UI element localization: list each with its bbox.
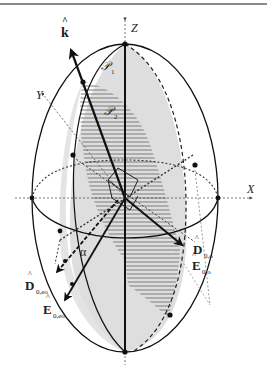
d-eo-label: D xyxy=(25,278,34,293)
y-axis-label: Y xyxy=(36,88,44,102)
e-eo-sub: 0,eo xyxy=(53,312,65,320)
e-o-sub: 0,o xyxy=(202,268,211,276)
e-eo-hat: ^ xyxy=(46,293,50,302)
z-axis-label: Z xyxy=(131,21,138,35)
plane-p1-sub: 1 xyxy=(111,68,115,76)
e-o-label: E xyxy=(192,258,201,273)
k-label: k xyxy=(61,25,69,40)
alpha-label: α xyxy=(80,245,87,259)
e-eo-label: E xyxy=(43,302,52,317)
x-axis-label: X xyxy=(246,182,255,196)
ellipsoid-diagram: ^ k Z Y X 𝒫 1 𝒫 2 ^ D 0,o ^ E 0,o α ^ D … xyxy=(0,0,267,371)
plane-p2-sub: 2 xyxy=(114,113,118,121)
d-o-sub: 0,o xyxy=(204,252,213,260)
